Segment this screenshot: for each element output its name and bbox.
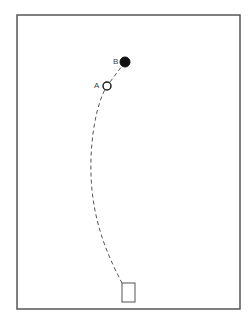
trajectory-path <box>91 62 125 283</box>
point-a-marker <box>103 82 111 90</box>
target-box <box>122 283 135 302</box>
point-b-label: B <box>113 57 118 66</box>
diagram-canvas: B A <box>0 0 252 323</box>
point-a-label: A <box>94 81 100 90</box>
point-b-marker <box>120 57 130 67</box>
